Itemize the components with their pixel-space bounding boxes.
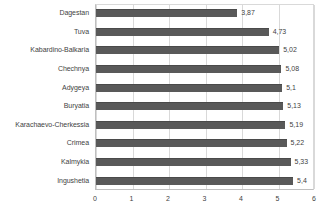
category-label: Kabardino-Balkaria	[0, 46, 89, 54]
bar-chart: Dagestan3,87Tuva4,73Kabardino-Balkaria5,…	[0, 0, 326, 216]
bar-container: 3,87	[96, 4, 255, 23]
bar-row: Ingushetia5,4	[0, 171, 326, 190]
category-label: Karachaevo-Cherkessia	[0, 121, 89, 129]
bar-value-label: 5,02	[283, 46, 297, 54]
bar-value-label: 4,73	[273, 28, 287, 36]
x-axis-tick-label: 2	[166, 195, 170, 203]
bar-row: Kabardino-Balkaria5,02	[0, 41, 326, 60]
bar	[96, 65, 281, 73]
bar-container: 5,19	[96, 116, 303, 135]
bar-value-label: 5,22	[291, 139, 305, 147]
category-label: Buryatia	[0, 102, 89, 110]
bar-value-label: 5,4	[297, 177, 307, 185]
x-axis-tick-label: 3	[203, 195, 207, 203]
bar-value-label: 5,33	[295, 158, 309, 166]
category-label: Adygeya	[0, 84, 89, 92]
x-axis-tick-label: 1	[130, 195, 134, 203]
bar-container: 5,02	[96, 41, 297, 60]
bar-container: 5,13	[96, 97, 301, 116]
bar-value-label: 5,19	[289, 121, 303, 129]
bar-container: 5,1	[96, 78, 296, 97]
bar-container: 5,33	[96, 153, 308, 172]
bar-container: 5,08	[96, 60, 299, 79]
bar-container: 4,73	[96, 23, 286, 42]
bar-row: Crimea5,22	[0, 134, 326, 153]
bar-value-label: 3,87	[241, 9, 255, 17]
bar-container: 5,4	[96, 171, 307, 190]
x-axis-tick-label: 4	[239, 195, 243, 203]
bar	[96, 177, 293, 185]
category-label: Kalmykia	[0, 158, 89, 166]
bar-row: Kalmykia5,33	[0, 153, 326, 172]
category-label: Tuva	[0, 28, 89, 36]
bar	[96, 121, 285, 129]
bar-value-label: 5,1	[286, 84, 296, 92]
bar-row: Chechnya5,08	[0, 60, 326, 79]
bar	[96, 28, 269, 36]
bar	[96, 139, 287, 147]
bar	[96, 9, 237, 17]
bar-container: 5,22	[96, 134, 304, 153]
bar	[96, 102, 283, 110]
bar	[96, 46, 279, 54]
bar-row: Buryatia5,13	[0, 97, 326, 116]
x-axis: 0123456	[95, 192, 314, 208]
x-axis-tick-label: 0	[93, 195, 97, 203]
bar-row: Dagestan3,87	[0, 4, 326, 23]
bar-row: Tuva4,73	[0, 23, 326, 42]
bar-value-label: 5,13	[287, 102, 301, 110]
category-label: Chechnya	[0, 65, 89, 73]
bar-value-label: 5,08	[285, 65, 299, 73]
bar-rows: Dagestan3,87Tuva4,73Kabardino-Balkaria5,…	[0, 4, 326, 190]
bar	[96, 84, 282, 92]
category-label: Dagestan	[0, 9, 89, 17]
category-label: Ingushetia	[0, 177, 89, 185]
bar	[96, 158, 291, 166]
bar-row: Adygeya5,1	[0, 78, 326, 97]
x-axis-tick-label: 6	[312, 195, 316, 203]
bar-row: Karachaevo-Cherkessia5,19	[0, 116, 326, 135]
x-axis-tick-label: 5	[276, 195, 280, 203]
category-label: Crimea	[0, 139, 89, 147]
